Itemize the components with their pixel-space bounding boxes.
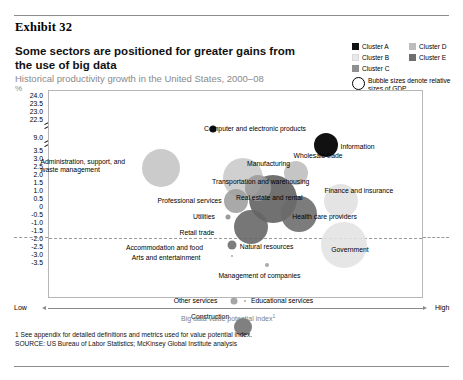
x-axis-footnote-marker: 1 <box>272 313 275 319</box>
legend-item-cluster-c: Cluster C <box>352 65 389 72</box>
bubble-management-of-companies[interactable] <box>265 263 269 267</box>
legend-swatch-icon <box>409 43 416 50</box>
legend-swatch-icon <box>352 65 359 72</box>
legend-swatch-icon <box>352 54 359 61</box>
legend-item-cluster-a: Cluster A <box>352 43 389 50</box>
legend: Cluster A Cluster B Cluster C Cluster D … <box>352 43 463 75</box>
y-axis-tick: -0.5 <box>31 211 43 218</box>
bubble-label-educational-services: Educational services <box>251 297 313 306</box>
y-axis-tick: 0 <box>39 203 43 210</box>
bubble-label-accommodation-and-food: Accommodation and food <box>126 244 203 253</box>
legend-label: Cluster E <box>419 54 446 61</box>
x-axis-right-arrow-icon <box>423 306 427 310</box>
y-axis-tick: -3.0 <box>31 251 43 258</box>
y-axis-tick: -1.0 <box>31 219 43 226</box>
exhibit-page: Exhibit 32 Some sectors are positioned f… <box>0 0 463 380</box>
bubble-label-administration-support-and-waste-management: Administration, support, and waste manag… <box>41 158 139 175</box>
top-rule <box>14 15 449 16</box>
bubble-arts-and-entertainment[interactable] <box>231 255 233 257</box>
x-axis-title-text: Big data value potential index <box>181 315 272 322</box>
footnote-1: 1 See appendix for detailed definitions … <box>15 330 252 339</box>
bubble-utilities[interactable] <box>226 214 231 219</box>
x-axis-left-arrow-icon <box>42 306 46 310</box>
y-axis-tick: 23.5 <box>30 100 43 107</box>
y-axis-tick: 1.5 <box>34 179 43 186</box>
bubble-label-computer-and-electronic-products: Computer and electronic products <box>204 125 306 134</box>
chart-headline: Some sectors are positioned for greater … <box>15 45 305 72</box>
bubble-educational-services[interactable] <box>244 300 246 302</box>
y-axis-tick: 0.5 <box>34 195 43 202</box>
bubble-label-other-services: Other services <box>174 297 218 306</box>
legend-label: Cluster D <box>419 43 446 50</box>
bubble-label-transportation-and-warehousing: Transportation and warehousing <box>212 178 309 187</box>
x-axis-high-label: High <box>435 304 449 311</box>
bubble-government[interactable] <box>321 222 367 268</box>
bubble-label-government: Government <box>331 246 368 255</box>
bubble-label-wholesale-trade: Wholesale trade <box>294 152 343 161</box>
bottom-rule <box>14 366 449 367</box>
bubble-administration-support-and-waste-management[interactable] <box>142 149 180 187</box>
legend-swatch-icon <box>409 54 416 61</box>
y-axis-tick: 1.0 <box>34 187 43 194</box>
legend-item-cluster-e: Cluster E <box>409 54 446 61</box>
y-axis-tick: 22.5 <box>30 116 43 123</box>
legend-label: Cluster B <box>362 54 389 61</box>
bubble-retail-trade[interactable] <box>234 210 268 244</box>
x-axis-line <box>48 308 423 309</box>
bubble-other-services[interactable] <box>230 298 237 305</box>
y-axis-tick: 24.0 <box>30 92 43 99</box>
source-line: SOURCE: US Bureau of Labor Statistics; M… <box>15 339 252 348</box>
y-axis-tick: 3.5 <box>34 147 43 154</box>
zero-line-left-extension <box>14 237 48 238</box>
bubble-label-arts-and-entertainment: Arts and entertainment <box>132 254 201 263</box>
bubble-label-retail-trade: Retail trade <box>180 229 215 238</box>
legend-label: Cluster C <box>362 65 389 72</box>
chart-subhead: Historical productivity growth in the Un… <box>15 73 315 84</box>
bubble-label-professional-services: Professional services <box>158 197 222 206</box>
bubble-label-manufacturing: Manufacturing <box>247 160 290 169</box>
bubble-label-management-of-companies: Management of companies <box>218 272 300 281</box>
y-axis-tick: 9.0 <box>34 134 43 141</box>
x-axis-title: Big data value potential index1 <box>181 313 275 322</box>
bubble-label-utilities: Utilities <box>193 213 215 222</box>
bubble-label-information: Information <box>341 143 375 152</box>
y-axis-unit: % <box>15 84 22 93</box>
bubble-label-natural-resources: Natural resources <box>240 243 294 252</box>
bubble-label-finance-and-insurance: Finance and insurance <box>325 187 394 196</box>
circle-outline-icon <box>352 77 365 90</box>
y-axis-tick: -1.5 <box>31 227 43 234</box>
bubble-label-real-estate-and-rental: Real estate and rental <box>236 194 303 203</box>
bubble-natural-resources[interactable] <box>227 240 236 249</box>
exhibit-label: Exhibit 32 <box>15 20 72 35</box>
y-axis-tick: -2.5 <box>31 243 43 250</box>
legend-item-cluster-b: Cluster B <box>352 54 389 61</box>
bubble-label-health-care-providers: Health care providers <box>292 213 357 222</box>
legend-label: Cluster A <box>362 43 389 50</box>
y-axis-tick: 23.0 <box>30 108 43 115</box>
x-axis-low-label: Low <box>14 304 27 311</box>
y-axis-tick: -3.5 <box>31 259 43 266</box>
legend-swatch-icon <box>352 43 359 50</box>
legend-item-cluster-d: Cluster D <box>409 43 446 50</box>
zero-line-right-extension <box>423 237 449 238</box>
footnotes: 1 See appendix for detailed definitions … <box>15 330 252 348</box>
